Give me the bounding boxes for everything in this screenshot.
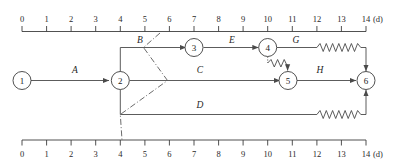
activity-H-label: H [316, 65, 325, 75]
top-tick-label: 10 [263, 14, 272, 24]
bottom-axis-ticks [22, 140, 366, 146]
bottom-tick-label: 11 [288, 149, 296, 159]
activity-D-float-zigzag [317, 111, 361, 119]
top-tick-label: 4 [118, 14, 123, 24]
top-tick-label: 6 [167, 14, 171, 24]
node-3[interactable]: 3 [185, 39, 203, 57]
activity-E: E [204, 35, 259, 48]
network-diagram-svg: 0 1 2 3 4 5 6 7 8 9 10 11 12 13 14 (d) [0, 0, 398, 165]
activity-A-label: A [71, 65, 78, 75]
activity-A: A [31, 65, 109, 81]
bottom-tick-label: 6 [167, 149, 171, 159]
node-5[interactable]: 5 [279, 72, 297, 90]
activity-B-label: B [137, 35, 143, 45]
node-4[interactable]: 4 [259, 39, 277, 57]
dummy-link-zigzag [268, 60, 288, 68]
activity-D: D [120, 90, 366, 119]
bottom-tick-label: 12 [313, 149, 322, 159]
activity-G-float-zigzag [317, 44, 361, 52]
top-tick-label: 9 [241, 14, 245, 24]
bottom-tick-label: 7 [192, 149, 196, 159]
activity-H: H [297, 65, 356, 81]
top-tick-label: 8 [216, 14, 220, 24]
bottom-axis-labels: 0 1 2 3 4 5 6 7 8 9 10 11 12 13 14 (d) [20, 149, 383, 159]
top-tick-label: 13 [337, 14, 346, 24]
activity-D-label: D [196, 100, 204, 110]
activity-G-label: G [293, 35, 300, 45]
dummy-link-4-5 [268, 57, 288, 71]
node-3-label: 3 [192, 43, 197, 53]
activity-E-label: E [228, 35, 235, 45]
bottom-tick-label: 5 [143, 149, 147, 159]
bottom-tick-label: 4 [118, 149, 123, 159]
node-2[interactable]: 2 [111, 72, 129, 90]
bottom-tick-label: 9 [241, 149, 245, 159]
top-tick-label: 3 [94, 14, 98, 24]
activity-B-arrow [120, 48, 186, 73]
bottom-tick-label: 14 [362, 149, 371, 159]
top-tick-label: 0 [20, 14, 24, 24]
top-axis-unit-label: (d) [373, 14, 383, 24]
top-tick-label: 2 [69, 14, 73, 24]
top-tick-label: 11 [288, 14, 296, 24]
bottom-axis: 0 1 2 3 4 5 6 7 8 9 10 11 12 13 14 (d) [20, 140, 383, 159]
bottom-tick-label: 13 [337, 149, 346, 159]
figure-canvas: 0 1 2 3 4 5 6 7 8 9 10 11 12 13 14 (d) [0, 0, 398, 165]
bottom-tick-label: 10 [263, 149, 272, 159]
bottom-tick-label: 8 [216, 149, 220, 159]
bottom-tick-label: 3 [94, 149, 98, 159]
activity-C: C [130, 65, 281, 81]
bottom-tick-label: 0 [20, 149, 24, 159]
bottom-axis-unit-label: (d) [373, 149, 383, 159]
top-axis: 0 1 2 3 4 5 6 7 8 9 10 11 12 13 14 (d) [20, 14, 383, 32]
node-6[interactable]: 6 [357, 72, 375, 90]
activity-D-riser [361, 90, 366, 115]
top-tick-label: 12 [313, 14, 322, 24]
node-1-label: 1 [20, 76, 25, 86]
activity-G-dropper [361, 48, 366, 72]
bottom-tick-label: 1 [44, 149, 48, 159]
node-4-label: 4 [265, 43, 270, 53]
top-axis-labels: 0 1 2 3 4 5 6 7 8 9 10 11 12 13 14 (d) [20, 14, 383, 24]
node-2-label: 2 [118, 76, 123, 86]
activity-B: B [120, 35, 186, 73]
top-tick-label: 1 [44, 14, 48, 24]
node-1[interactable]: 1 [13, 72, 31, 90]
top-axis-ticks [22, 26, 366, 32]
activity-C-label: C [197, 65, 204, 75]
top-tick-label: 7 [192, 14, 196, 24]
node-6-label: 6 [364, 76, 369, 86]
top-tick-label: 14 [362, 14, 371, 24]
top-tick-label: 5 [143, 14, 147, 24]
bottom-tick-label: 2 [69, 149, 73, 159]
node-5-label: 5 [286, 76, 291, 86]
